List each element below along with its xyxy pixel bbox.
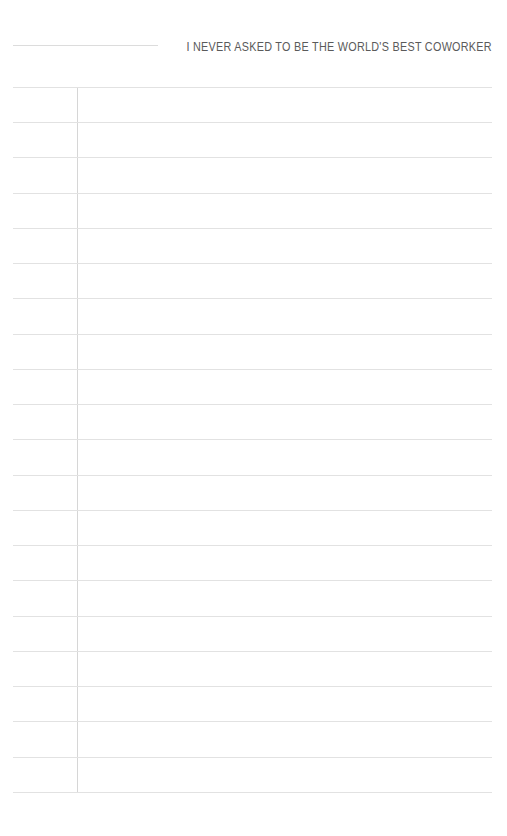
rule-line <box>13 510 492 511</box>
notebook-page: I NEVER ASKED TO BE THE WORLD'S BEST COW… <box>0 0 507 836</box>
rule-line <box>13 757 492 758</box>
rule-line <box>13 122 492 123</box>
ruled-lines-area <box>0 0 507 836</box>
rule-line <box>13 651 492 652</box>
rule-line <box>13 157 492 158</box>
rule-line <box>13 228 492 229</box>
rule-line <box>13 298 492 299</box>
rule-line <box>13 545 492 546</box>
rule-line <box>13 686 492 687</box>
rule-line <box>13 263 492 264</box>
rule-line <box>13 475 492 476</box>
rule-line <box>13 616 492 617</box>
rule-line <box>13 334 492 335</box>
rule-line <box>13 792 492 793</box>
rule-line <box>13 721 492 722</box>
rule-line <box>13 369 492 370</box>
rule-line <box>13 193 492 194</box>
rule-line <box>13 404 492 405</box>
rule-line <box>13 580 492 581</box>
rule-line <box>13 439 492 440</box>
rule-line <box>13 87 492 88</box>
